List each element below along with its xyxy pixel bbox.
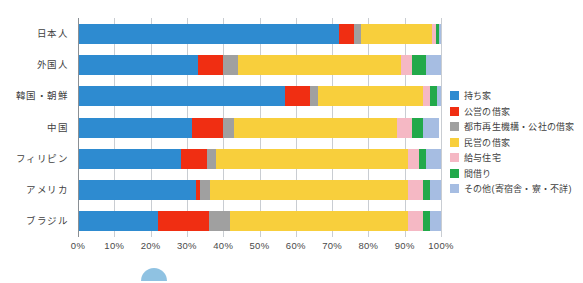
bar-segment[interactable] [318, 86, 423, 106]
legend-label: 民営の借家 [464, 136, 510, 149]
gridline [441, 18, 442, 237]
bar-segment[interactable] [210, 180, 408, 200]
category-axis-label: 韓国・朝鮮 [0, 86, 68, 106]
bar-segment[interactable] [423, 118, 439, 138]
bar-segment[interactable] [78, 24, 339, 44]
bar-segment[interactable] [200, 180, 211, 200]
bar-segment[interactable] [419, 149, 426, 169]
category-axis-label: ブラジル [0, 211, 68, 231]
bar-row[interactable] [78, 118, 441, 138]
bar-row[interactable] [78, 55, 441, 75]
legend-item[interactable]: その他(寄宿舎・寮・不詳) [450, 181, 583, 197]
legend-swatch-icon [450, 91, 459, 100]
bar-segment[interactable] [198, 55, 223, 75]
value-axis-tick-label: 40% [213, 240, 233, 251]
bar-segment[interactable] [223, 118, 234, 138]
legend-swatch-icon [450, 169, 459, 178]
bar-segment[interactable] [408, 180, 423, 200]
bar-segment[interactable] [426, 55, 441, 75]
bar-segment[interactable] [401, 55, 412, 75]
value-axis-tick-label: 90% [395, 240, 415, 251]
bar-segment[interactable] [354, 24, 361, 44]
category-axis-label: 外国人 [0, 55, 68, 75]
bar-segment[interactable] [78, 86, 285, 106]
bar-segment[interactable] [423, 86, 430, 106]
bar-segment[interactable] [339, 24, 354, 44]
bar-segment[interactable] [408, 149, 419, 169]
legend-swatch-icon [450, 122, 459, 131]
bar-segment[interactable] [209, 211, 231, 231]
bar-segment[interactable] [234, 118, 397, 138]
bar-segment[interactable] [78, 211, 158, 231]
bar-segment[interactable] [310, 86, 317, 106]
bar-segment[interactable] [238, 55, 401, 75]
stacked-bar-chart: 日本人外国人韓国・朝鮮中国フィリピンアメリカブラジル 0%10%20%30%40… [0, 0, 583, 283]
category-axis: 日本人外国人韓国・朝鮮中国フィリピンアメリカブラジル [0, 18, 74, 237]
bar-segment[interactable] [397, 118, 412, 138]
value-axis-tick-label: 80% [358, 240, 378, 251]
bar-segment[interactable] [223, 55, 238, 75]
bar-row[interactable] [78, 180, 441, 200]
bar-segment[interactable] [230, 211, 408, 231]
value-axis-line [78, 18, 79, 237]
bar-row[interactable] [78, 211, 441, 231]
value-axis-tick-label: 60% [286, 240, 306, 251]
legend-label: その他(寄宿舎・寮・不詳) [464, 182, 572, 195]
bar-segment[interactable] [361, 24, 432, 44]
value-axis-tick-label: 100% [428, 240, 454, 251]
bar-segment[interactable] [78, 149, 181, 169]
value-axis-tick-label: 20% [141, 240, 161, 251]
bar-segment[interactable] [430, 86, 437, 106]
category-axis-label: 中国 [0, 118, 68, 138]
legend-swatch-icon [450, 138, 459, 147]
legend-item[interactable]: 公営の借家 [450, 104, 583, 120]
value-axis-tick-label: 30% [177, 240, 197, 251]
bar-segment[interactable] [207, 149, 216, 169]
legend-item[interactable]: 給与住宅 [450, 150, 583, 166]
bar-segment[interactable] [423, 211, 430, 231]
legend-swatch-icon [450, 184, 459, 193]
legend-label: 給与住宅 [464, 151, 501, 164]
bar-segment[interactable] [192, 118, 223, 138]
bar-row[interactable] [78, 149, 441, 169]
bar-segment[interactable] [412, 55, 427, 75]
legend-item[interactable]: 都市再生機構・公社の借家 [450, 119, 583, 135]
bar-segment[interactable] [426, 149, 441, 169]
category-axis-label: フィリピン [0, 149, 68, 169]
legend-item[interactable]: 持ち家 [450, 88, 583, 104]
decorative-arc [141, 268, 167, 281]
chart-legend: 持ち家公営の借家都市再生機構・公社の借家民営の借家給与住宅間借りその他(寄宿舎・… [450, 88, 583, 197]
bar-segment[interactable] [437, 86, 441, 106]
value-axis-tick-label: 70% [322, 240, 342, 251]
bar-segment[interactable] [78, 55, 198, 75]
bar-row[interactable] [78, 86, 441, 106]
bar-segment[interactable] [408, 211, 423, 231]
bar-segment[interactable] [423, 180, 430, 200]
value-axis-ticks: 0%10%20%30%40%50%60%70%80%90%100% [78, 240, 441, 258]
legend-swatch-icon [450, 153, 459, 162]
legend-label: 都市再生機構・公社の借家 [464, 120, 574, 133]
legend-item[interactable]: 間借り [450, 166, 583, 182]
legend-swatch-icon [450, 107, 459, 116]
bar-row[interactable] [78, 24, 441, 44]
bar-segment[interactable] [439, 24, 441, 44]
bar-segment[interactable] [285, 86, 310, 106]
bar-segment[interactable] [430, 180, 441, 200]
plot-area [78, 18, 441, 237]
legend-label: 持ち家 [464, 89, 492, 102]
legend-label: 間借り [464, 167, 492, 180]
category-axis-label: アメリカ [0, 180, 68, 200]
bar-segment[interactable] [78, 118, 192, 138]
bar-segment[interactable] [216, 149, 408, 169]
bar-segment[interactable] [430, 211, 441, 231]
category-axis-label: 日本人 [0, 24, 68, 44]
bar-series-container [78, 18, 441, 237]
bar-segment[interactable] [412, 118, 423, 138]
bar-segment[interactable] [78, 180, 196, 200]
legend-item[interactable]: 民営の借家 [450, 135, 583, 151]
legend-label: 公営の借家 [464, 105, 510, 118]
bar-segment[interactable] [158, 211, 209, 231]
bar-segment[interactable] [181, 149, 206, 169]
value-axis-tick-label: 50% [250, 240, 270, 251]
value-axis-tick-label: 10% [104, 240, 124, 251]
